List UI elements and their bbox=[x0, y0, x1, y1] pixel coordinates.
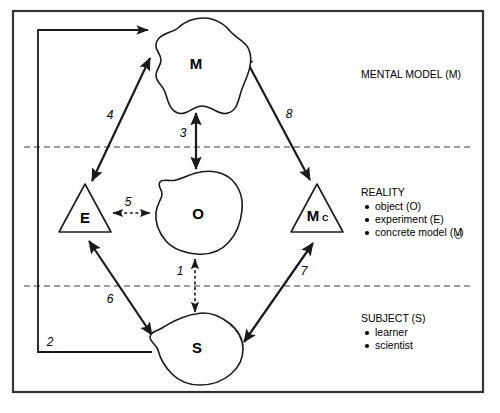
arrow-7-label: 7 bbox=[301, 264, 309, 278]
node-concrete-model-label: M bbox=[307, 207, 320, 224]
band-subject-item-scientist: scientist bbox=[375, 339, 413, 351]
node-experiment[interactable]: E bbox=[59, 184, 111, 232]
band-subject: SUBJECT (S) learner scientist bbox=[361, 312, 426, 351]
arrow-5: 5 bbox=[113, 195, 150, 213]
bullet-icon bbox=[365, 231, 369, 235]
node-object[interactable]: O bbox=[156, 171, 242, 254]
bullet-icon bbox=[365, 218, 369, 222]
node-object-label: O bbox=[192, 205, 204, 222]
node-concrete-model[interactable]: M C bbox=[291, 184, 343, 232]
node-experiment-label: E bbox=[80, 209, 90, 226]
arrow-1-label: 1 bbox=[177, 264, 184, 278]
arrow-5-label: 5 bbox=[125, 195, 132, 209]
bullet-icon bbox=[365, 344, 369, 348]
node-subject[interactable]: S bbox=[150, 313, 243, 385]
band-reality-item-experiment: experiment (E) bbox=[375, 213, 444, 225]
arrow-6-label: 6 bbox=[107, 292, 114, 306]
diagram-canvas: 2 4 3 8 5 1 6 bbox=[0, 0, 500, 413]
arrow-8-label: 8 bbox=[286, 107, 293, 121]
band-reality: REALITY object (O) experiment (E) concre… bbox=[361, 186, 464, 241]
band-mental-model: MENTAL MODEL (M) bbox=[361, 68, 461, 80]
arrow-6: 6 bbox=[89, 241, 152, 335]
band-subject-title: SUBJECT (S) bbox=[361, 312, 426, 324]
band-reality-item-object: object (O) bbox=[375, 200, 421, 212]
arrow-4: 4 bbox=[92, 58, 150, 181]
arrow-3: 3 bbox=[180, 113, 196, 169]
arrow-7: 7 bbox=[244, 243, 313, 342]
arrow-2-label: 2 bbox=[46, 335, 54, 349]
node-concrete-model-sublabel: C bbox=[322, 213, 329, 223]
arrow-4-label: 4 bbox=[107, 108, 114, 122]
model-reality-subject-diagram: 2 4 3 8 5 1 6 bbox=[0, 0, 500, 413]
band-reality-item-concrete-model-suffix: ) bbox=[460, 226, 464, 238]
arrow-3-label: 3 bbox=[180, 126, 187, 140]
band-reality-title: REALITY bbox=[361, 186, 405, 198]
band-subject-item-learner: learner bbox=[375, 326, 408, 338]
node-mental-model[interactable]: M bbox=[156, 18, 251, 114]
arrow-8: 8 bbox=[243, 54, 310, 180]
band-mental-model-title: MENTAL MODEL (M) bbox=[361, 68, 461, 80]
node-mental-model-label: M bbox=[190, 55, 203, 72]
node-subject-label: S bbox=[192, 339, 202, 356]
arrow-2: 2 bbox=[38, 30, 152, 352]
bullet-icon bbox=[365, 331, 369, 335]
band-reality-item-concrete-model: concrete model (M bbox=[375, 226, 462, 238]
bullet-icon bbox=[365, 205, 369, 209]
